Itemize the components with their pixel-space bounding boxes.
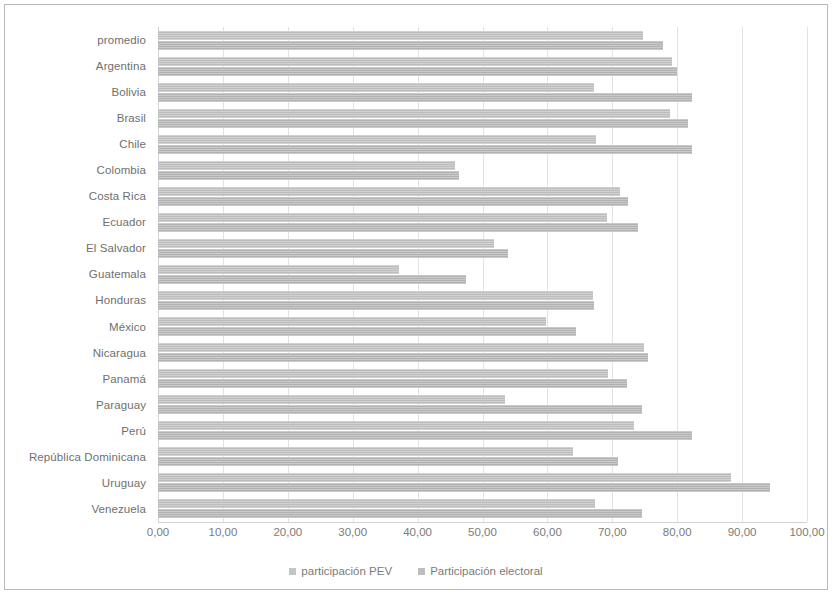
bar-group (158, 157, 807, 183)
x-tick-label: 20,00 (273, 526, 302, 538)
x-tick-label: 40,00 (403, 526, 432, 538)
bar-participacion-pev (158, 499, 595, 508)
bar-participacion-electoral (158, 93, 692, 102)
bar-participacion-electoral (158, 275, 466, 284)
category-label: Guatemala (5, 261, 153, 287)
bar-participacion-pev (158, 187, 620, 196)
category-label: Panamá (5, 366, 153, 392)
bar-group (158, 392, 807, 418)
category-label: Honduras (5, 287, 153, 313)
x-tick-label: 30,00 (338, 526, 367, 538)
legend-swatch-icon (418, 568, 425, 575)
bar-group (158, 366, 807, 392)
category-label: Colombia (5, 157, 153, 183)
bar-participacion-pev (158, 239, 494, 248)
bar-participacion-pev (158, 317, 546, 326)
category-label: promedio (5, 27, 153, 53)
bar-participacion-electoral (158, 223, 638, 232)
category-label: Ecuador (5, 209, 153, 235)
category-label: Bolivia (5, 79, 153, 105)
bar-group (158, 53, 807, 79)
bar-group (158, 470, 807, 496)
bar-group (158, 209, 807, 235)
category-label: México (5, 314, 153, 340)
category-label: Paraguay (5, 392, 153, 418)
bar-group (158, 27, 807, 53)
x-tick-label: 0,00 (147, 526, 169, 538)
x-axis-line (158, 522, 807, 523)
category-label: Perú (5, 418, 153, 444)
bar-participacion-pev (158, 343, 644, 352)
bar-participacion-pev (158, 57, 672, 66)
bar-participacion-electoral (158, 119, 688, 128)
bar-participacion-electoral (158, 41, 663, 50)
x-tick-label: 10,00 (209, 526, 238, 538)
legend-item[interactable]: participación PEV (289, 565, 392, 577)
x-tick-label: 80,00 (663, 526, 692, 538)
category-label: Brasil (5, 105, 153, 131)
bar-group (158, 287, 807, 313)
bar-participacion-electoral (158, 145, 692, 154)
x-tick-label: 100,00 (789, 526, 824, 538)
bar-group (158, 340, 807, 366)
bar-participacion-pev (158, 161, 455, 170)
category-label: El Salvador (5, 235, 153, 261)
bar-participacion-electoral (158, 353, 648, 362)
bar-participacion-electoral (158, 483, 770, 492)
bar-group (158, 235, 807, 261)
bar-participacion-electoral (158, 379, 627, 388)
chart-legend: participación PEVParticipación electoral (5, 565, 827, 577)
legend-item[interactable]: Participación electoral (418, 565, 543, 577)
bar-participacion-electoral (158, 249, 508, 258)
bar-participacion-pev (158, 83, 594, 92)
category-label: Nicaragua (5, 340, 153, 366)
bar-participacion-electoral (158, 301, 594, 310)
bar-participacion-electoral (158, 509, 642, 518)
bar-participacion-pev (158, 421, 634, 430)
plot-area-wrapper: promedioArgentinaBoliviaBrasilChileColom… (5, 5, 827, 589)
bar-group (158, 444, 807, 470)
x-tick-label: 60,00 (533, 526, 562, 538)
bar-participacion-pev (158, 109, 670, 118)
legend-label: Participación electoral (430, 565, 543, 577)
bar-group (158, 183, 807, 209)
category-label: Uruguay (5, 470, 153, 496)
bar-participacion-electoral (158, 171, 459, 180)
bar-group (158, 105, 807, 131)
x-tick-label: 70,00 (598, 526, 627, 538)
bar-participacion-pev (158, 265, 399, 274)
legend-label: participación PEV (301, 565, 392, 577)
bar-participacion-electoral (158, 197, 628, 206)
category-label: Costa Rica (5, 183, 153, 209)
bar-group (158, 261, 807, 287)
bar-group (158, 496, 807, 522)
x-axis-tick-labels: 0,0010,0020,0030,0040,0050,0060,0070,008… (158, 526, 807, 546)
bar-participacion-electoral (158, 67, 677, 76)
bar-participacion-electoral (158, 457, 618, 466)
category-label: Argentina (5, 53, 153, 79)
x-tick-label: 90,00 (728, 526, 757, 538)
category-label: República Dominicana (5, 444, 153, 470)
bar-participacion-electoral (158, 431, 692, 440)
category-axis-labels: promedioArgentinaBoliviaBrasilChileColom… (5, 27, 153, 522)
bar-participacion-pev (158, 473, 731, 482)
bar-group (158, 131, 807, 157)
bar-group (158, 314, 807, 340)
bar-participacion-pev (158, 135, 596, 144)
plot-area (158, 27, 807, 522)
bar-rows (158, 27, 807, 522)
bar-participacion-pev (158, 395, 505, 404)
bar-participacion-pev (158, 369, 608, 378)
x-tick-label: 50,00 (468, 526, 497, 538)
bar-participacion-pev (158, 291, 593, 300)
bar-participacion-electoral (158, 327, 576, 336)
bar-participacion-pev (158, 213, 607, 222)
bar-group (158, 418, 807, 444)
category-label: Venezuela (5, 496, 153, 522)
bar-participacion-electoral (158, 405, 642, 414)
gridline (807, 27, 808, 522)
chart-container: promedioArgentinaBoliviaBrasilChileColom… (4, 4, 828, 590)
bar-participacion-pev (158, 447, 573, 456)
category-label: Chile (5, 131, 153, 157)
bar-group (158, 79, 807, 105)
